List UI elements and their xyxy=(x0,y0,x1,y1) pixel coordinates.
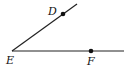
label-E: E xyxy=(5,54,14,67)
point-F xyxy=(89,49,94,54)
label-F: F xyxy=(86,55,95,68)
angle-diagram: D E F xyxy=(0,0,140,71)
label-D: D xyxy=(47,5,57,18)
ray-ED xyxy=(12,4,77,51)
point-D xyxy=(61,12,66,17)
